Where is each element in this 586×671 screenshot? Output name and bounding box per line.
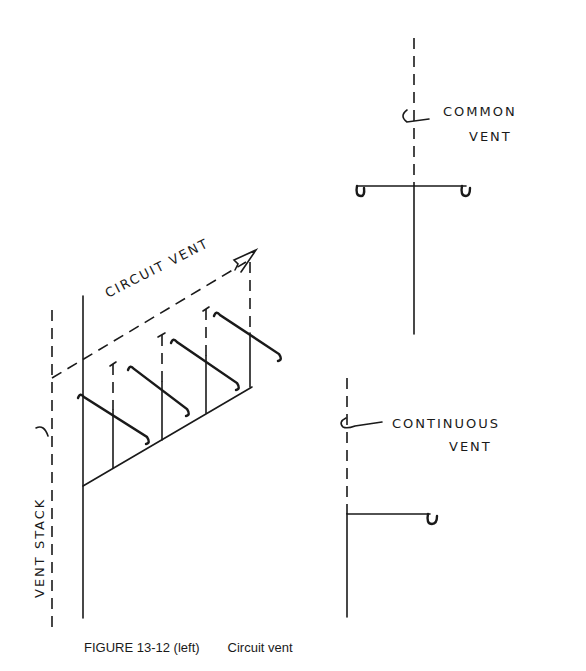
circuit-vent-label: CIRCUIT VENT	[103, 235, 212, 300]
figure-caption: FIGURE 13-12 (left) Circuit vent	[84, 640, 293, 655]
common-vent-leader	[403, 110, 429, 122]
horizontal-drain-line	[83, 387, 252, 486]
continuous-vent-diagram: CONTINUOUS VENT	[341, 378, 500, 617]
circuit-vent-diagram: CIRCUIT VENT VENT STACK	[32, 235, 281, 627]
common-vent-label-line1: COMMON	[443, 104, 517, 119]
common-vent-label-line2: VENT	[469, 129, 512, 144]
figure-number: FIGURE 13-12 (left)	[84, 640, 200, 655]
circuit-vent-leader	[234, 250, 256, 272]
plumbing-vent-diagram: CIRCUIT VENT VENT STACK COMMON VENT CONT…	[0, 0, 586, 671]
vent-stack-label: VENT STACK	[32, 498, 47, 598]
vent-stack-leader	[36, 427, 48, 436]
continuous-vent-label-line1: CONTINUOUS	[392, 416, 500, 431]
figure-title: Circuit vent	[228, 640, 293, 655]
common-vent-diagram: COMMON VENT	[357, 38, 517, 334]
continuous-vent-label-line2: VENT	[449, 439, 492, 454]
